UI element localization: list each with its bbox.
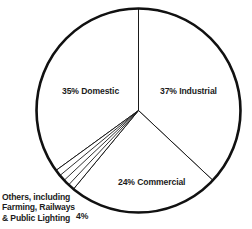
slice-label-industrial: 37% Industrial — [160, 86, 217, 96]
slice-label-others-percent: 4% — [76, 211, 88, 221]
pie-chart-figure: 35% Domestic 37% Industrial 24% Commerci… — [0, 0, 252, 229]
slice-label-others: Others, including Farming, Railways & Pu… — [2, 192, 78, 223]
others-label-line-1: Others, including — [2, 192, 78, 202]
slice-label-domestic: 35% Domestic — [62, 86, 119, 96]
others-label-line-3: & Public Lighting — [2, 213, 78, 223]
others-label-line-2: Farming, Railways — [2, 202, 78, 212]
slice-label-commercial: 24% Commercial — [118, 177, 185, 187]
